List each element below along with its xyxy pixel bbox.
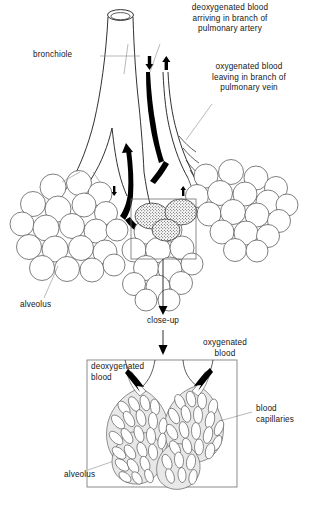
arrow-down-icon: [145, 56, 153, 70]
alveoli-cluster-right: [186, 160, 299, 263]
arrow-up-icon: [180, 186, 186, 196]
alveoli-cluster-left: [10, 171, 128, 283]
leader-vein: [186, 104, 212, 140]
label-alveolus-bottom: alveolus: [64, 470, 116, 481]
label-pulmonary-artery: deoxygenated blood arriving in branch of…: [150, 3, 310, 35]
arrow-down-icon: [159, 345, 168, 355]
arrow-up-icon: [162, 56, 170, 70]
leader-bronchiole-tick: [124, 44, 128, 74]
leader-artery: [150, 44, 160, 72]
bronchiole-structure: [54, 10, 150, 204]
lung-gas-exchange-diagram: .ln{fill:none;stroke:#1a1a1a;stroke-widt…: [0, 0, 314, 505]
label-deoxygenated-blood: deoxygenated blood: [91, 362, 155, 383]
label-close-up: close-up: [133, 316, 193, 327]
leader-alveolus-b: [93, 172, 100, 182]
label-pulmonary-vein: oxygenated blood leaving in branch of pu…: [186, 62, 312, 94]
label-bronchiole: bronchiole: [33, 50, 99, 61]
arrow-down-icon: [122, 143, 133, 153]
label-oxygenated-blood: oxygenated blood: [192, 338, 258, 359]
label-blood-capillaries: blood capillaries: [256, 404, 312, 425]
label-alveolus-top: alveolus: [20, 300, 80, 311]
